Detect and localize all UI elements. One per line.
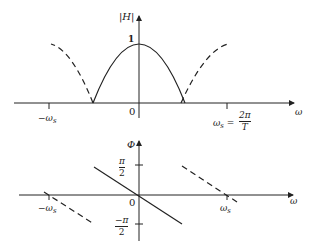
phase-x-label: ω (290, 197, 297, 206)
phase-minus-ws-label: −ωs (38, 204, 56, 215)
magnitude-minus-ws-label: −ωs (38, 114, 56, 125)
phase-dashed-right (182, 166, 237, 202)
pi-over-2-label: π 2 (119, 157, 125, 178)
magnitude-peak-label: 1 (128, 35, 134, 44)
phase-plot (19, 141, 293, 241)
ws-eq: = (227, 118, 235, 128)
pi-numerator: π (119, 157, 125, 166)
magnitude-plot (14, 16, 294, 118)
two-pi-over-t-fraction: 2π T (239, 111, 251, 132)
pi-denominator: 2 (119, 169, 125, 178)
minus-ws-sub: s (53, 117, 57, 125)
magnitude-y-label: |H| (119, 12, 134, 22)
phase-y-label: Φ (127, 140, 135, 150)
minus-pi-numerator: −π (115, 216, 128, 225)
phase-ws-label: ωs (220, 204, 231, 215)
phase-minus-ws-text: −ω (38, 203, 53, 213)
minus-pi-over-2-label: −π 2 (115, 216, 128, 237)
magnitude-dashed-left (51, 44, 93, 103)
phase-minus-ws-sub: s (53, 207, 57, 215)
magnitude-ws-label: ωs = (213, 119, 234, 130)
fraction-denominator: T (242, 123, 248, 132)
magnitude-origin-label: 0 (129, 107, 135, 117)
minus-ws-text: −ω (38, 113, 53, 123)
phase-ws-sub: s (227, 207, 231, 215)
phase-origin-label: 0 (129, 198, 135, 208)
fraction-numerator: 2π (239, 111, 251, 120)
magnitude-dashed-right (181, 44, 228, 103)
minus-pi-denominator: 2 (119, 228, 125, 237)
ws-sub: s (220, 122, 224, 130)
magnitude-x-label: ω (295, 108, 302, 117)
